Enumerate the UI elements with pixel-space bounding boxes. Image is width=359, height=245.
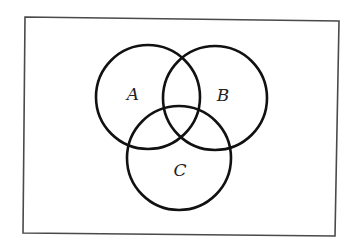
set-a-circle [96,45,200,149]
set-a-label: A [125,84,139,104]
set-c-circle [127,106,231,210]
set-c-label: C [173,160,186,180]
set-b-circle [163,46,267,150]
set-b-label: B [216,85,230,105]
venn-diagram: A B C [0,0,359,245]
universal-set-rectangle [23,17,339,236]
